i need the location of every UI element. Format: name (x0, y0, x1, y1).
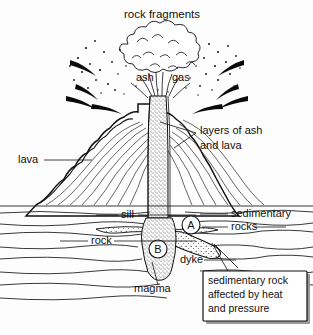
layers-ash-lava-label-line2: and lava (200, 139, 242, 151)
marker-circle-a: A (182, 216, 200, 234)
ash-label: ash (136, 71, 154, 83)
layers-ash-lava-label-line1: layers of ash (200, 124, 262, 136)
sill-label: sill (121, 208, 134, 220)
callout-line-2: affected by heat (208, 288, 283, 300)
diagram-canvas: A B rock fragments ash gas layers of ash (0, 0, 313, 335)
volcanic-conduit (148, 96, 170, 218)
dyke-label: dyke (180, 253, 203, 265)
sedimentary-rocks-label-line1: sedimentary (231, 207, 291, 219)
volcano-diagram: A B rock fragments ash gas layers of ash (0, 0, 313, 335)
sedimentary-rocks-label-line2: rocks (231, 220, 258, 232)
eruption-cloud (119, 20, 200, 72)
callout-line-1: sedimentary rock (208, 274, 289, 286)
lava-label: lava (18, 153, 39, 165)
marker-a-label: A (187, 219, 195, 231)
gas-label: gas (172, 71, 190, 83)
magma-label: magma (134, 282, 172, 294)
marker-circle-b: B (149, 240, 167, 258)
rock-fragments-label: rock fragments (124, 8, 200, 20)
rock-label: rock (91, 234, 112, 246)
marker-b-label: B (154, 243, 161, 255)
callout-line-3: and pressure (208, 302, 269, 314)
